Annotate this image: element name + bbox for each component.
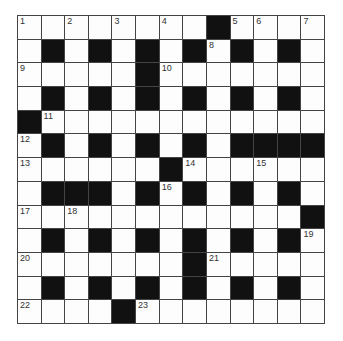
answer-cell[interactable]: [207, 277, 230, 300]
answer-cell[interactable]: 12: [18, 134, 41, 157]
answer-cell[interactable]: 9: [18, 63, 41, 86]
answer-cell[interactable]: [207, 87, 230, 110]
answer-cell[interactable]: [160, 206, 183, 229]
answer-cell[interactable]: [278, 63, 301, 86]
answer-cell[interactable]: 8: [207, 40, 230, 63]
answer-cell[interactable]: [207, 182, 230, 205]
answer-cell[interactable]: 5: [231, 16, 254, 39]
answer-cell[interactable]: [301, 111, 324, 134]
answer-cell[interactable]: [65, 229, 88, 252]
answer-cell[interactable]: [160, 277, 183, 300]
answer-cell[interactable]: [160, 40, 183, 63]
answer-cell[interactable]: [231, 206, 254, 229]
answer-cell[interactable]: [112, 277, 135, 300]
answer-cell[interactable]: [301, 253, 324, 276]
answer-cell[interactable]: [112, 206, 135, 229]
answer-cell[interactable]: [89, 253, 112, 276]
answer-cell[interactable]: 23: [136, 300, 159, 323]
answer-cell[interactable]: [42, 16, 65, 39]
answer-cell[interactable]: 22: [18, 300, 41, 323]
answer-cell[interactable]: [42, 300, 65, 323]
answer-cell[interactable]: 19: [301, 229, 324, 252]
answer-cell[interactable]: [65, 277, 88, 300]
answer-cell[interactable]: [207, 134, 230, 157]
answer-cell[interactable]: [18, 40, 41, 63]
answer-cell[interactable]: [207, 206, 230, 229]
answer-cell[interactable]: [89, 300, 112, 323]
answer-cell[interactable]: 21: [207, 253, 230, 276]
answer-cell[interactable]: [136, 16, 159, 39]
answer-cell[interactable]: [160, 134, 183, 157]
answer-cell[interactable]: [65, 158, 88, 181]
answer-cell[interactable]: 17: [18, 206, 41, 229]
answer-cell[interactable]: [183, 111, 206, 134]
answer-cell[interactable]: [207, 229, 230, 252]
answer-cell[interactable]: [254, 63, 277, 86]
answer-cell[interactable]: [160, 300, 183, 323]
answer-cell[interactable]: [65, 63, 88, 86]
answer-cell[interactable]: [160, 111, 183, 134]
answer-cell[interactable]: [207, 111, 230, 134]
answer-cell[interactable]: 11: [42, 111, 65, 134]
answer-cell[interactable]: [65, 40, 88, 63]
answer-cell[interactable]: [301, 63, 324, 86]
answer-cell[interactable]: 14: [183, 158, 206, 181]
answer-cell[interactable]: [42, 158, 65, 181]
answer-cell[interactable]: [301, 158, 324, 181]
answer-cell[interactable]: [254, 253, 277, 276]
answer-cell[interactable]: [42, 63, 65, 86]
answer-cell[interactable]: [65, 87, 88, 110]
answer-cell[interactable]: [207, 63, 230, 86]
answer-cell[interactable]: 6: [254, 16, 277, 39]
answer-cell[interactable]: [65, 111, 88, 134]
answer-cell[interactable]: [18, 229, 41, 252]
answer-cell[interactable]: [207, 158, 230, 181]
answer-cell[interactable]: 13: [18, 158, 41, 181]
answer-cell[interactable]: [112, 40, 135, 63]
answer-cell[interactable]: [65, 300, 88, 323]
answer-cell[interactable]: [278, 16, 301, 39]
answer-cell[interactable]: 2: [65, 16, 88, 39]
answer-cell[interactable]: [231, 111, 254, 134]
answer-cell[interactable]: [112, 63, 135, 86]
answer-cell[interactable]: [89, 16, 112, 39]
answer-cell[interactable]: [183, 206, 206, 229]
answer-cell[interactable]: [112, 111, 135, 134]
answer-cell[interactable]: [183, 300, 206, 323]
answer-cell[interactable]: 10: [160, 63, 183, 86]
answer-cell[interactable]: [18, 182, 41, 205]
answer-cell[interactable]: [301, 40, 324, 63]
answer-cell[interactable]: [112, 134, 135, 157]
answer-cell[interactable]: 3: [112, 16, 135, 39]
answer-cell[interactable]: [112, 182, 135, 205]
answer-cell[interactable]: 20: [18, 253, 41, 276]
answer-cell[interactable]: [136, 253, 159, 276]
answer-cell[interactable]: [136, 206, 159, 229]
answer-cell[interactable]: [160, 253, 183, 276]
answer-cell[interactable]: [136, 158, 159, 181]
answer-cell[interactable]: [231, 300, 254, 323]
answer-cell[interactable]: [254, 111, 277, 134]
answer-cell[interactable]: [278, 158, 301, 181]
answer-cell[interactable]: [112, 158, 135, 181]
answer-cell[interactable]: [65, 253, 88, 276]
answer-cell[interactable]: [254, 182, 277, 205]
answer-cell[interactable]: [254, 87, 277, 110]
answer-cell[interactable]: [89, 111, 112, 134]
answer-cell[interactable]: [18, 277, 41, 300]
answer-cell[interactable]: [254, 40, 277, 63]
answer-cell[interactable]: [18, 87, 41, 110]
answer-cell[interactable]: 18: [65, 206, 88, 229]
answer-cell[interactable]: [278, 206, 301, 229]
answer-cell[interactable]: [231, 158, 254, 181]
answer-cell[interactable]: [254, 300, 277, 323]
answer-cell[interactable]: 15: [254, 158, 277, 181]
answer-cell[interactable]: [89, 158, 112, 181]
answer-cell[interactable]: [112, 87, 135, 110]
answer-cell[interactable]: [301, 182, 324, 205]
answer-cell[interactable]: [231, 253, 254, 276]
answer-cell[interactable]: [278, 300, 301, 323]
answer-cell[interactable]: [89, 63, 112, 86]
answer-cell[interactable]: 7: [301, 16, 324, 39]
answer-cell[interactable]: [278, 111, 301, 134]
